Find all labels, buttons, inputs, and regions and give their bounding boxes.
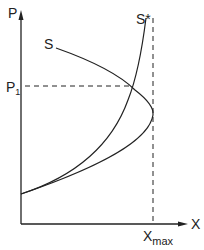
y-axis-arrow-icon xyxy=(19,10,24,20)
xmax-label: Xmax xyxy=(143,229,173,243)
diagram: P X S S* P1 Xmax xyxy=(0,0,204,250)
x-axis-label: X xyxy=(191,217,200,231)
curve-s-star xyxy=(21,18,146,194)
xmax-label-sub: max xyxy=(152,235,173,247)
p1-label-sub: 1 xyxy=(15,87,20,97)
y-axis-label: P xyxy=(8,6,17,20)
curve-s-label: S xyxy=(44,37,53,51)
p1-label: P1 xyxy=(6,80,20,94)
curve-s-star-label: S* xyxy=(136,12,151,26)
xmax-label-main: X xyxy=(143,228,152,244)
p1-label-main: P xyxy=(6,79,15,95)
x-axis-arrow-icon xyxy=(178,222,188,227)
curve-s xyxy=(21,48,153,194)
diagram-canvas xyxy=(0,0,204,250)
